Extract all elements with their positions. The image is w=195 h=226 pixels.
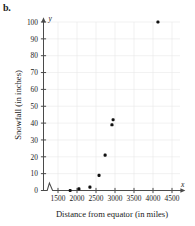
y-tick-label: 100 [27, 18, 38, 27]
y-tick-label: 20 [31, 153, 39, 162]
y-axis-title: Snowfall (in inches) [13, 70, 23, 140]
x-tick-label: 2500 [89, 194, 104, 203]
x-tick-label: 4500 [165, 194, 180, 203]
y-tick-label: 80 [31, 51, 39, 60]
data-point [110, 123, 113, 126]
y-tick-label: 50 [31, 102, 39, 111]
y-tick-label: 70 [31, 68, 39, 77]
y-tick-label: 0 [34, 186, 38, 195]
scatter-plot-figure: b. 0102030405060708090100 15002000250030… [0, 0, 195, 226]
x-tick-label: 1500 [51, 194, 66, 203]
x-axis-line-with-break [44, 183, 183, 191]
y-tick-label: 10 [31, 169, 39, 178]
y-tick-label: 40 [31, 119, 39, 128]
x-axis-title: Distance from equator (in miles) [56, 209, 168, 219]
x-tick-label: 2000 [70, 194, 85, 203]
x-tick-label: 4000 [146, 194, 161, 203]
y-axis-variable-label: y [48, 14, 53, 23]
data-point [77, 187, 80, 190]
data-point [156, 20, 159, 23]
data-point [104, 154, 107, 157]
data-point [97, 174, 100, 177]
data-point [112, 118, 115, 121]
y-tick-label: 30 [31, 136, 39, 145]
y-tick-label: 90 [31, 35, 39, 44]
y-axis-arrowhead [41, 17, 45, 22]
data-point [69, 189, 72, 192]
gridlines-group [44, 22, 181, 191]
y-tick-label: 60 [31, 85, 39, 94]
x-tick-label: 3000 [108, 194, 123, 203]
x-tick-label: 3500 [127, 194, 142, 203]
data-point [88, 186, 91, 189]
x-axis-variable-label: x [180, 180, 185, 189]
plot-canvas: 0102030405060708090100 15002000250030003… [0, 0, 195, 226]
